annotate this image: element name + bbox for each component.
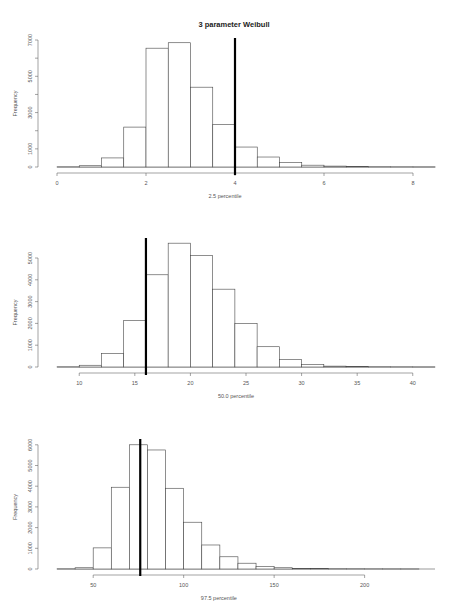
x-tick-label: 25: [243, 380, 249, 386]
histogram-bar: [79, 365, 101, 367]
histogram-bar: [184, 522, 202, 569]
y-tick-label: 1000: [27, 339, 33, 351]
histogram-bar: [147, 450, 165, 569]
y-tick-label: 0: [27, 365, 33, 368]
x-tick-label: 200: [360, 582, 369, 588]
histogram-bar: [146, 275, 168, 367]
histogram-bar: [279, 360, 301, 367]
x-axis-label: 50.0 percentile: [218, 393, 254, 399]
histogram-bar: [257, 157, 279, 167]
y-tick-label: 2000: [27, 521, 33, 533]
x-tick-label: 6: [322, 180, 325, 186]
histogram-bar: [257, 347, 279, 367]
y-tick-label: 0: [27, 165, 33, 168]
x-tick-label: 15: [132, 380, 138, 386]
histogram-bar: [79, 166, 101, 167]
histogram-bar: [292, 568, 310, 569]
histogram-bar: [302, 365, 324, 367]
histogram-bar: [111, 487, 129, 569]
histogram-bar: [274, 568, 292, 569]
y-tick-label: 6000: [27, 439, 33, 451]
histogram-bar: [166, 488, 184, 569]
y-tick-label: 7000: [27, 34, 33, 46]
histogram-panel-2-5-percentile: 01000300050007000024682.5 percentileFreq…: [12, 34, 435, 199]
histogram-bar: [235, 323, 257, 367]
y-tick-label: 3000: [27, 295, 33, 307]
x-axis-label: 2.5 percentile: [208, 193, 241, 199]
x-tick-label: 100: [179, 582, 188, 588]
histogram-bar: [324, 166, 346, 167]
histogram-bar: [124, 127, 146, 167]
histogram-bar: [124, 321, 146, 367]
x-tick-label: 2: [144, 180, 147, 186]
histogram-bar: [238, 563, 256, 569]
histogram-bar: [146, 48, 168, 167]
x-tick-label: 150: [270, 582, 279, 588]
histogram-figure: 3 parameter Weibull 01000300050007000024…: [0, 0, 451, 611]
x-tick-label: 30: [299, 380, 305, 386]
y-axis-label: Frequency: [12, 90, 18, 116]
x-tick-label: 10: [76, 380, 82, 386]
histogram-bar: [101, 353, 123, 367]
histogram-bar: [191, 87, 213, 167]
histogram-bar: [93, 548, 111, 569]
histogram-bar: [235, 147, 257, 167]
y-tick-label: 5000: [27, 252, 33, 264]
y-axis-label: Frequency: [12, 494, 18, 520]
histogram-bar: [324, 366, 346, 367]
histogram-bar: [168, 243, 190, 367]
histogram-bar: [168, 43, 190, 167]
y-tick-label: 4000: [27, 274, 33, 286]
histogram-bar: [213, 289, 235, 367]
histogram-bar: [129, 445, 147, 569]
histogram-bar: [256, 566, 274, 569]
y-tick-label: 4000: [27, 480, 33, 492]
x-tick-label: 4: [233, 180, 236, 186]
y-tick-label: 5000: [27, 459, 33, 471]
x-axis-label: 97.5 percentile: [201, 595, 237, 601]
x-tick-label: 8: [411, 180, 414, 186]
histogram-bar: [220, 557, 238, 569]
histogram-panel-97-5-percentile: 01000200030004000500060005010015020097.5…: [12, 439, 435, 601]
y-tick-label: 0: [27, 567, 33, 570]
histogram-bar: [213, 124, 235, 167]
x-tick-label: 35: [354, 380, 360, 386]
y-tick-label: 3000: [27, 106, 33, 118]
histogram-panel-50-percentile: 0100020003000400050001015202530354050.0 …: [12, 238, 435, 399]
y-axis-label: Frequency: [12, 299, 18, 325]
x-tick-label: 50: [90, 582, 96, 588]
histogram-bar: [190, 255, 212, 367]
x-tick-label: 40: [410, 380, 416, 386]
histogram-bar: [302, 165, 324, 167]
histogram-bar: [280, 162, 302, 167]
y-tick-label: 1000: [27, 143, 33, 155]
x-tick-label: 0: [55, 180, 58, 186]
histogram-bar: [75, 568, 93, 569]
histogram-bar: [102, 158, 124, 167]
y-tick-label: 3000: [27, 501, 33, 513]
y-tick-label: 5000: [27, 70, 33, 82]
histogram-bar: [202, 545, 220, 569]
figure-title: 3 parameter Weibull: [198, 20, 269, 29]
y-tick-label: 1000: [27, 542, 33, 554]
y-tick-label: 2000: [27, 317, 33, 329]
x-tick-label: 20: [187, 380, 193, 386]
